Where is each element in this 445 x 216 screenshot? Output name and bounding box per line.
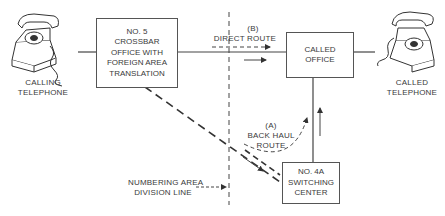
crossbar-line-1: NO. 5 <box>107 27 167 38</box>
switching-line-2: SWITCHING <box>288 178 334 189</box>
division-line-label: NUMBERING AREA DIVISION LINE <box>128 178 198 198</box>
back-haul-tag: (A) <box>243 121 299 131</box>
switching-line-1: NO. 4A <box>288 167 334 178</box>
calling-telephone-icon <box>12 14 62 86</box>
calling-telephone-label: CALLING TELEPHONE <box>8 78 78 98</box>
called-telephone-label-line1: CALLED <box>380 78 444 88</box>
back-haul-text-2: ROUTE <box>243 141 299 151</box>
crossbar-line-3: OFFICE WITH <box>107 48 167 59</box>
crossbar-office-box: NO. 5 CROSSBAR OFFICE WITH FOREIGN AREA … <box>96 18 178 88</box>
diagram-canvas: CALLING TELEPHONE NO. 5 CROSSBAR OFFICE … <box>0 0 445 216</box>
called-telephone-icon <box>378 12 435 72</box>
switching-line-3: CENTER <box>288 188 334 199</box>
crossbar-line-2: CROSSBAR <box>107 37 167 48</box>
called-office-line-1: CALLED <box>304 45 335 56</box>
back-haul-route-label: (A) BACK HAUL ROUTE <box>243 121 299 151</box>
calling-telephone-label-line2: TELEPHONE <box>8 88 78 98</box>
division-line-text-1: NUMBERING AREA <box>128 178 198 188</box>
called-telephone-label-line2: TELEPHONE <box>380 88 444 98</box>
direct-route-text: DIRECT ROUTE <box>210 34 280 44</box>
crossbar-line-5: TRANSLATION <box>107 69 167 80</box>
switching-center-box: NO. 4A SWITCHING CENTER <box>282 162 340 204</box>
direct-route-tag: (B) <box>210 24 280 34</box>
back-haul-text-1: BACK HAUL <box>243 131 299 141</box>
division-line-text-2: DIVISION LINE <box>128 188 198 198</box>
calling-telephone-label-line1: CALLING <box>8 78 78 88</box>
called-office-box: CALLED OFFICE <box>286 32 354 78</box>
direct-route-label: (B) DIRECT ROUTE <box>210 24 280 44</box>
crossbar-line-4: FOREIGN AREA <box>107 58 167 69</box>
called-office-line-2: OFFICE <box>304 55 335 66</box>
called-telephone-label: CALLED TELEPHONE <box>380 78 444 98</box>
